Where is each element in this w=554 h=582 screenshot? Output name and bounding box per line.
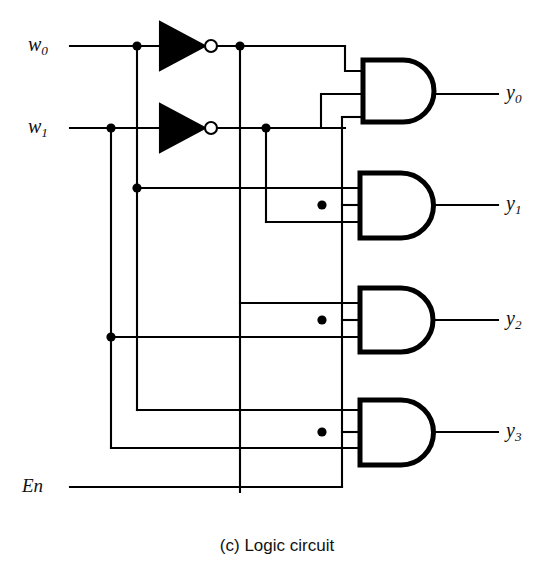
input-label-w1: w1 — [28, 115, 48, 141]
junction-dot — [235, 41, 244, 50]
and-gate-y2-body — [360, 288, 433, 352]
and-gate-y0-body — [363, 60, 434, 122]
output-label-y1: y1 — [506, 192, 521, 218]
circuit-canvas — [0, 0, 554, 582]
not-gate-w1-bubble — [205, 122, 217, 134]
output-label-y2: y2 — [506, 307, 521, 333]
junction-dot — [132, 41, 141, 50]
junction-dot — [317, 315, 326, 324]
junction-dot — [106, 123, 115, 132]
junction-dot — [132, 183, 141, 192]
junction-dot — [317, 427, 326, 436]
junction-dot — [317, 200, 326, 209]
input-label-en: En — [22, 475, 43, 497]
not-gate-w0-triangle — [160, 22, 205, 70]
output-label-y3: y3 — [506, 419, 521, 445]
not-gate-w1-triangle — [160, 104, 205, 152]
and-gate-y1-body — [360, 173, 434, 238]
junction-dot — [106, 332, 115, 341]
and-gate-y3-body — [360, 400, 434, 465]
wire-w0bar-to-y0 — [345, 46, 363, 71]
output-label-y0: y0 — [506, 81, 521, 107]
not-gate-w0-bubble — [205, 40, 217, 52]
figure-caption: (c) Logic circuit — [0, 536, 554, 556]
junction-dot — [261, 123, 270, 132]
input-label-w0: w0 — [28, 33, 48, 59]
logic-circuit-figure: w0 w1 En y0 y1 y2 y3 (c) Logic circuit — [0, 0, 554, 582]
junction-dots — [106, 41, 326, 436]
